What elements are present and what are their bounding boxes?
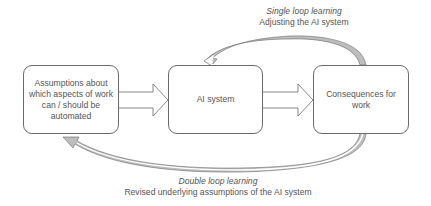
node-consequences-label: Consequences for work [326, 89, 396, 111]
node-consequences: Consequences for work [313, 65, 409, 134]
single-loop-subtitle: Adjusting the AI system [236, 17, 372, 28]
double-loop-label: Double loop learning Revised underlying … [118, 176, 318, 198]
node-assumptions: Assumptions about which aspects of work … [23, 65, 119, 134]
node-ai-system-label: AI system [197, 94, 235, 105]
single-loop-title: Single loop learning [236, 6, 372, 17]
arrow-ai-to-consequences [262, 84, 313, 116]
node-ai-system: AI system [168, 65, 263, 134]
single-loop-label: Single loop learning Adjusting the AI sy… [236, 6, 372, 28]
double-loop-subtitle: Revised underlying assumptions of the AI… [118, 187, 318, 198]
arrow-assumptions-to-ai [118, 84, 168, 116]
node-assumptions-label: Assumptions about which aspects of work … [28, 78, 114, 122]
double-loop-arrow [63, 133, 366, 172]
single-loop-arrow [204, 36, 366, 66]
double-loop-title: Double loop learning [118, 176, 318, 187]
